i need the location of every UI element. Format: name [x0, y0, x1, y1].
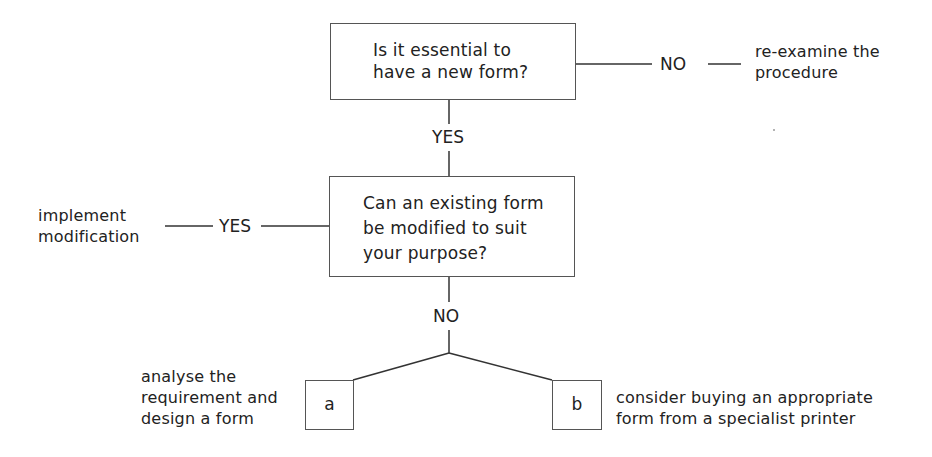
outcome-text-line: modification [38, 226, 140, 247]
outcome-analyse: analyse the requirement and design a for… [141, 366, 278, 429]
outcome-implement: implement modification [38, 205, 140, 247]
question-text-line: Can an existing form [363, 191, 544, 216]
flowchart-canvas: Is it essential to have a new form? NO r… [0, 0, 932, 457]
scan-artifact-dot [773, 129, 775, 131]
question-text-line: have a new form? [373, 61, 528, 83]
edge-label-no: NO [660, 53, 686, 75]
edge-label-yes: YES [219, 215, 251, 237]
option-box-a: a [305, 380, 354, 430]
option-letter: b [553, 394, 601, 414]
edge-label-yes: YES [432, 126, 464, 148]
outcome-text-line: implement [38, 205, 140, 226]
option-box-b: b [552, 380, 602, 430]
question-box-modify: Can an existing form be modified to suit… [329, 176, 575, 277]
question-text-line: be modified to suit [363, 216, 544, 241]
branch-line-b [449, 353, 552, 380]
branch-line-a [353, 353, 449, 380]
outcome-reexamine: re-examine the procedure [755, 41, 880, 83]
question-text-line: your purpose? [363, 241, 544, 266]
question-text-line: Is it essential to [373, 39, 528, 61]
question-box-essential: Is it essential to have a new form? [330, 23, 576, 100]
outcome-text-line: form from a specialist printer [616, 408, 873, 429]
outcome-text-line: analyse the [141, 366, 278, 387]
outcome-text-line: procedure [755, 62, 880, 83]
outcome-text-line: design a form [141, 408, 278, 429]
outcome-text-line: consider buying an appropriate [616, 387, 873, 408]
outcome-text-line: requirement and [141, 387, 278, 408]
outcome-consider: consider buying an appropriate form from… [616, 387, 873, 429]
edge-label-no: NO [433, 305, 459, 327]
outcome-text-line: re-examine the [755, 41, 880, 62]
option-letter: a [306, 394, 353, 414]
